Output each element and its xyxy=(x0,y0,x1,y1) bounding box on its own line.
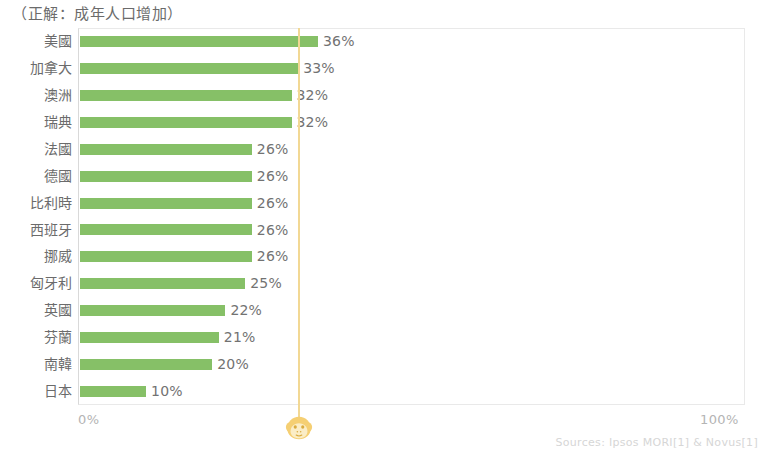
bar-row: 德國26% xyxy=(0,163,770,190)
bar xyxy=(80,251,252,262)
bar-value-label: 33% xyxy=(303,55,335,82)
bar-value-label: 25% xyxy=(250,270,282,297)
bar xyxy=(80,36,318,47)
bar-row: 法國26% xyxy=(0,136,770,163)
bar xyxy=(80,90,292,101)
page-title: （正解：成年人口增加） xyxy=(12,2,183,23)
bar xyxy=(80,332,219,343)
bar xyxy=(80,63,298,74)
bar xyxy=(80,224,252,235)
bar-value-label: 32% xyxy=(297,82,329,109)
bar-row: 英國22% xyxy=(0,297,770,324)
bar-row-label: 匈牙利 xyxy=(0,270,72,297)
bar-value-label: 26% xyxy=(257,217,289,244)
bar-value-label: 21% xyxy=(224,324,256,351)
bar-row: 瑞典32% xyxy=(0,109,770,136)
bar-value-label: 22% xyxy=(230,297,262,324)
bar-value-label: 26% xyxy=(257,243,289,270)
bar-row-label: 加拿大 xyxy=(0,55,72,82)
bar-row: 匈牙利25% xyxy=(0,270,770,297)
bar xyxy=(80,144,252,155)
bar-row-label: 澳洲 xyxy=(0,82,72,109)
bar xyxy=(80,305,225,316)
bar-value-label: 32% xyxy=(297,109,329,136)
bar-row: 西班牙26% xyxy=(0,217,770,244)
bar xyxy=(80,171,252,182)
bar-row-label: 德國 xyxy=(0,163,72,190)
bar-row: 澳洲32% xyxy=(0,82,770,109)
bar-value-label: 20% xyxy=(217,351,249,378)
bar-row: 挪威26% xyxy=(0,243,770,270)
bar-row: 比利時26% xyxy=(0,190,770,217)
bar xyxy=(80,117,292,128)
reference-line xyxy=(298,28,300,418)
bar-row: 美國36% xyxy=(0,28,770,55)
bar-row-label: 南韓 xyxy=(0,351,72,378)
bar-row-label: 日本 xyxy=(0,378,72,405)
bar-row: 芬蘭21% xyxy=(0,324,770,351)
bar-value-label: 10% xyxy=(151,378,183,405)
bar-row-label: 美國 xyxy=(0,28,72,55)
bar-row-label: 挪威 xyxy=(0,243,72,270)
bar-row-label: 瑞典 xyxy=(0,109,72,136)
bar-row: 日本10% xyxy=(0,378,770,405)
bar-row-label: 英國 xyxy=(0,297,72,324)
bar xyxy=(80,278,245,289)
bar-row: 南韓20% xyxy=(0,351,770,378)
bar-value-label: 26% xyxy=(257,190,289,217)
bar-value-label: 36% xyxy=(323,28,355,55)
bar xyxy=(80,386,146,397)
monkey-face-icon xyxy=(284,413,314,443)
bar-value-label: 26% xyxy=(257,163,289,190)
bar-row-label: 芬蘭 xyxy=(0,324,72,351)
bar-row-label: 比利時 xyxy=(0,190,72,217)
axis-label-max: 100% xyxy=(700,412,739,427)
source-note: Sources: Ipsos MORI[1] & Novus[1] xyxy=(556,436,758,449)
bar xyxy=(80,198,252,209)
axis-label-min: 0% xyxy=(78,412,99,427)
bar-row: 加拿大33% xyxy=(0,55,770,82)
bar-value-label: 26% xyxy=(257,136,289,163)
bar xyxy=(80,359,212,370)
bar-row-label: 法國 xyxy=(0,136,72,163)
bar-row-label: 西班牙 xyxy=(0,217,72,244)
